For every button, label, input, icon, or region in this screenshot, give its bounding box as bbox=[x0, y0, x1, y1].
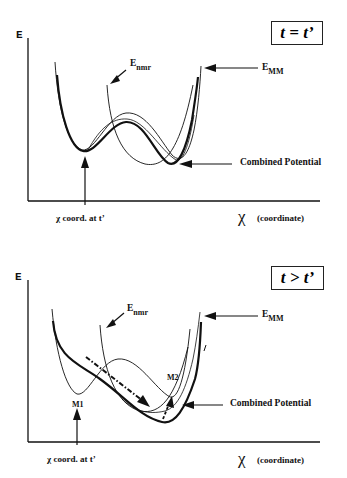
panel-t-greater-tprime: t > t’ E Enmr EMM Combined Potential M1 … bbox=[0, 239, 347, 478]
y-axis-label: E bbox=[16, 29, 23, 41]
time-label: t = t’ bbox=[280, 23, 313, 42]
emm-curve bbox=[55, 62, 201, 158]
m2-label: M2 bbox=[167, 373, 179, 382]
panel-t-equals-tprime: t = t’ E Enmr EMM Combined Potential χ c… bbox=[0, 0, 347, 239]
combined-arrow-icon bbox=[179, 160, 192, 168]
x-axis-symbol: χ bbox=[238, 449, 246, 469]
time-label: t > t’ bbox=[281, 268, 314, 287]
emm-label: EMM bbox=[262, 62, 283, 72]
x-axis-symbol: χ bbox=[238, 207, 246, 227]
time-label-box: t = t’ bbox=[271, 21, 323, 45]
x-axis-label: (coordinate) bbox=[257, 455, 304, 465]
enmr-label: Enmr bbox=[130, 58, 151, 68]
emm-label: EMM bbox=[262, 309, 283, 319]
coord-marker-label: χ coord. at t’ bbox=[47, 454, 96, 464]
coord-marker-label: χ coord. at t’ bbox=[56, 213, 105, 223]
y-axis-label: E bbox=[15, 271, 22, 283]
x-axis-label: (coordinate) bbox=[257, 213, 304, 223]
time-label-box: t > t’ bbox=[271, 266, 324, 290]
combined-potential-label: Combined Potential bbox=[230, 398, 311, 408]
m2-arrow-icon bbox=[166, 396, 174, 408]
coord-marker-arrow-icon bbox=[73, 408, 81, 420]
coord-marker-arrow-icon bbox=[81, 156, 89, 168]
emm-arrow-icon bbox=[204, 64, 216, 72]
m1-label: M1 bbox=[72, 400, 84, 409]
enmr-label: Enmr bbox=[127, 303, 148, 313]
combined-potential-label: Combined Potential bbox=[240, 157, 321, 167]
emm-arrow-icon bbox=[204, 312, 216, 320]
